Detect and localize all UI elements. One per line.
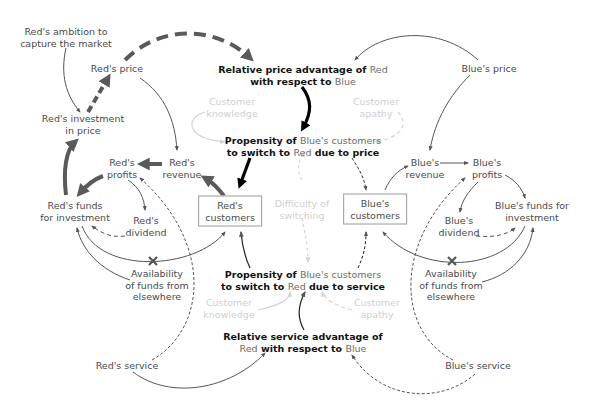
- link-relative-service-to-propensity: [299, 292, 305, 330]
- link-difficulty-down: [302, 218, 308, 262]
- node-blue-availability-of-funds: Availability of funds from elsewhere: [419, 268, 483, 303]
- blue-availability-x-icon: [448, 257, 456, 265]
- node-red-price: Red's price: [91, 63, 143, 75]
- link-propensity-price-to-blue-customers: [352, 158, 366, 190]
- node-blue-price: Blue's price: [461, 63, 516, 75]
- link-propensity-service-to-blue-customers: [358, 232, 366, 268]
- link-red-funds-to-investment: [65, 142, 75, 195]
- link-blue-dividend-to-funds: [476, 228, 515, 237]
- node-red-revenue: Red's revenue: [163, 157, 202, 180]
- link-propensity-price-to-red-customers: [240, 158, 250, 185]
- node-customer-knowledge-top: Customer knowledge: [206, 96, 258, 119]
- link-blue-price-to-relative: [355, 36, 478, 60]
- node-customer-knowledge-bottom: Customer knowledge: [203, 297, 255, 320]
- node-relative-price-advantage: Relative price advantage of Red with res…: [218, 64, 387, 87]
- node-blue-dividend: Blue's dividend: [439, 215, 480, 238]
- link-knowledge-loop-bottom: [258, 292, 290, 310]
- node-blue-service: Blue's service: [445, 360, 511, 372]
- link-apathy-loop-bottom: [322, 292, 352, 310]
- link-blue-availability-to-funds: [482, 228, 533, 282]
- link-red-price-to-revenue: [140, 78, 177, 150]
- node-red-service: Red's service: [96, 360, 159, 372]
- link-relative-price-to-propensity: [302, 87, 310, 128]
- node-difficulty-of-switching: Difficulty of switching: [275, 198, 330, 221]
- node-propensity-price: Propensity of Blue's customers to switch…: [225, 135, 381, 158]
- node-red-ambition: Red's ambition to capture the market: [20, 26, 112, 49]
- link-price-to-relative-advantage: [125, 33, 250, 60]
- node-red-profits: Red's profits: [107, 157, 137, 180]
- node-red-customers: Red's customers: [198, 196, 262, 227]
- link-red-profits-to-dividend: [128, 180, 145, 210]
- node-blue-profits: Blue's profits: [472, 157, 502, 180]
- link-investment-to-price: [88, 78, 108, 112]
- link-red-dividend-to-funds: [92, 226, 125, 236]
- link-red-customers-to-revenue: [205, 178, 224, 196]
- node-blue-customers: Blue's customers: [343, 194, 407, 225]
- link-blue-profits-to-dividend: [460, 182, 478, 212]
- node-red-dividend: Red's dividend: [126, 215, 167, 238]
- node-blue-funds-for-investment: Blue's funds for investment: [495, 200, 569, 223]
- link-blue-profits-to-funds: [505, 175, 525, 198]
- node-relative-service-advantage: Relative service advantage of Red with r…: [223, 331, 383, 354]
- link-blue-price-to-revenue: [430, 75, 470, 150]
- link-ambition-to-investment: [64, 48, 80, 112]
- node-red-availability-of-funds: Availability of funds from elsewhere: [125, 268, 189, 303]
- node-red-investment-in-price: Red's investment in price: [42, 113, 124, 136]
- link-propensity-service-to-red-customers: [241, 232, 250, 268]
- node-blue-revenue: Blue's revenue: [406, 157, 445, 180]
- node-customer-apathy-top: Customer apathy: [353, 96, 399, 119]
- causal-loop-diagram: Red's ambition to capture the market Red…: [0, 0, 595, 414]
- link-blue-customers-to-revenue: [385, 166, 408, 190]
- node-customer-apathy-bottom: Customer apathy: [354, 297, 400, 320]
- node-red-funds-for-investment: Red's funds for investment: [40, 200, 110, 223]
- node-propensity-service: Propensity of Blue's customers to switch…: [221, 269, 385, 292]
- link-red-profits-to-funds: [80, 176, 103, 193]
